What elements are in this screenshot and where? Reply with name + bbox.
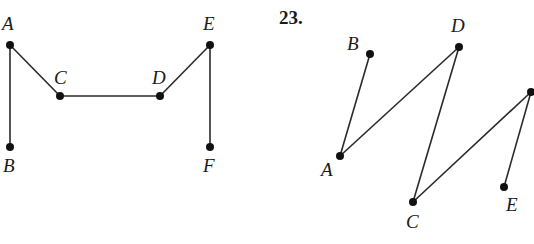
graph-right-label-C: C [406,211,419,232]
graph-left-node-C [56,92,64,100]
graph-diagram: 23. ACDEBFBDACE [0,0,534,244]
graph-right-edge-C-R [413,92,531,202]
graph-left-label-E: E [202,13,215,34]
graph-right-label-D: D [450,15,465,36]
graph-right-node-C [409,198,417,206]
nodes-layer [6,41,534,206]
graph-left-node-B [6,143,14,151]
graph-left-edge-D-E [160,45,210,96]
graph-left-label-A: A [0,13,14,34]
graph-right-node-B [366,50,374,58]
graph-right-label-B: B [347,33,359,54]
graph-left-node-F [206,143,214,151]
graph-right-edge-D-C [413,47,459,202]
edges-layer [10,45,531,202]
labels-layer: ACDEBFBDACE [0,13,518,232]
graph-left-node-E [206,41,214,49]
graph-left-label-C: C [54,67,67,88]
graph-right-node-E [500,183,508,191]
graph-left-node-A [6,41,14,49]
graph-right-node-A [336,152,344,160]
graph-left-label-F: F [202,155,215,176]
graph-right-node-D [455,43,463,51]
graph-left-label-B: B [3,155,15,176]
graph-right-label-E: E [505,194,518,215]
graph-right-edge-R-E [504,92,531,187]
graph-left-node-D [156,92,164,100]
problem-number: 23. [279,7,303,28]
graph-left-label-D: D [151,67,166,88]
graph-right-label-A: A [319,159,333,180]
graph-left-edge-A-C [10,45,60,96]
graph-right-edge-A-D [340,47,459,156]
graph-right-edge-A-B [340,54,370,156]
